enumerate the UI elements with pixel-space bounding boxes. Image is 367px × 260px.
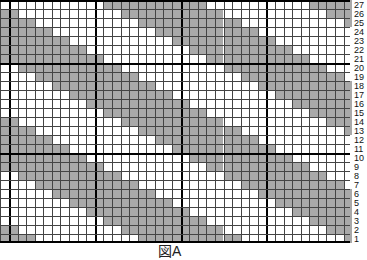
shaded-cell xyxy=(60,189,69,198)
row-number: 8 xyxy=(354,172,359,181)
grid-line xyxy=(0,54,350,55)
row-number: 26 xyxy=(354,10,364,19)
shaded-cell xyxy=(0,225,9,234)
shaded-cell xyxy=(69,81,78,90)
shaded-cell xyxy=(86,189,95,198)
shaded-cell xyxy=(78,81,87,90)
shaded-cell xyxy=(258,162,267,171)
shaded-cell xyxy=(69,72,78,81)
shaded-cell xyxy=(103,72,112,81)
shaded-cell xyxy=(326,216,335,225)
shaded-cell xyxy=(78,162,87,171)
shaded-cell xyxy=(26,126,35,135)
shaded-cell xyxy=(112,108,121,117)
shaded-cell xyxy=(112,99,121,108)
shaded-cell xyxy=(284,54,293,63)
shaded-cell xyxy=(86,198,95,207)
shaded-cell xyxy=(18,135,27,144)
shaded-cell xyxy=(172,9,181,18)
shaded-cell xyxy=(129,99,138,108)
grid-line xyxy=(0,216,350,217)
shaded-cell xyxy=(189,225,198,234)
shaded-cell xyxy=(292,198,301,207)
shaded-cell xyxy=(138,108,147,117)
shaded-cell xyxy=(69,162,78,171)
grid-line xyxy=(0,162,350,163)
shaded-cell xyxy=(206,9,215,18)
shaded-cell xyxy=(146,81,155,90)
shaded-cell xyxy=(309,72,318,81)
shaded-cell xyxy=(26,27,35,36)
shaded-cell xyxy=(129,189,138,198)
shaded-cell xyxy=(121,72,130,81)
shaded-cell xyxy=(35,135,44,144)
shaded-cell xyxy=(241,45,250,54)
shaded-cell xyxy=(326,225,335,234)
shaded-cell xyxy=(249,54,258,63)
shaded-cell xyxy=(249,180,258,189)
shaded-cell xyxy=(163,117,172,126)
shaded-cell xyxy=(284,90,293,99)
shaded-cell xyxy=(189,45,198,54)
shaded-cell xyxy=(155,216,164,225)
shaded-cell xyxy=(129,72,138,81)
shaded-cell xyxy=(0,27,9,36)
shaded-cell xyxy=(241,27,250,36)
grid-line xyxy=(0,9,350,10)
shaded-cell xyxy=(26,135,35,144)
shaded-cell xyxy=(241,135,250,144)
shaded-cell xyxy=(52,54,61,63)
shaded-cell xyxy=(258,81,267,90)
shaded-cell xyxy=(206,36,215,45)
shaded-cell xyxy=(344,117,352,126)
shaded-cell xyxy=(129,207,138,216)
shaded-cell xyxy=(215,54,224,63)
shaded-cell xyxy=(121,9,130,18)
shaded-cell xyxy=(258,171,267,180)
shaded-cell xyxy=(26,54,35,63)
shaded-cell xyxy=(301,207,310,216)
row-number: 19 xyxy=(354,73,364,82)
shaded-cell xyxy=(129,108,138,117)
shaded-cell xyxy=(232,27,241,36)
shaded-cell xyxy=(344,18,352,27)
shaded-cell xyxy=(284,72,293,81)
shaded-cell xyxy=(121,189,130,198)
shaded-cell xyxy=(163,27,172,36)
row-number: 27 xyxy=(354,1,364,10)
shaded-cell xyxy=(232,18,241,27)
shaded-cell xyxy=(318,180,327,189)
shaded-cell xyxy=(138,207,147,216)
shaded-cell xyxy=(78,198,87,207)
shaded-cell xyxy=(215,126,224,135)
shaded-cell xyxy=(275,180,284,189)
shaded-cell xyxy=(163,18,172,27)
shaded-cell xyxy=(326,180,335,189)
shaded-cell xyxy=(43,162,52,171)
shaded-cell xyxy=(292,54,301,63)
shaded-cell xyxy=(60,54,69,63)
shaded-cell xyxy=(215,9,224,18)
grid-line xyxy=(0,207,350,208)
shaded-cell xyxy=(232,45,241,54)
shaded-cell xyxy=(335,9,344,18)
shaded-cell xyxy=(189,9,198,18)
row-number: 17 xyxy=(354,91,364,100)
row-number: 6 xyxy=(354,190,359,199)
shaded-cell xyxy=(103,90,112,99)
shaded-cell xyxy=(86,99,95,108)
shaded-cell xyxy=(301,81,310,90)
shaded-cell xyxy=(198,216,207,225)
shaded-cell xyxy=(35,171,44,180)
shaded-cell xyxy=(232,144,241,153)
shaded-cell xyxy=(301,162,310,171)
shaded-cell xyxy=(224,54,233,63)
shaded-cell xyxy=(292,99,301,108)
shaded-cell xyxy=(249,162,258,171)
shaded-cell xyxy=(155,225,164,234)
shaded-cell xyxy=(35,162,44,171)
shaded-cell xyxy=(301,54,310,63)
shaded-cell xyxy=(172,108,181,117)
shaded-cell xyxy=(112,81,121,90)
shaded-cell xyxy=(52,180,61,189)
